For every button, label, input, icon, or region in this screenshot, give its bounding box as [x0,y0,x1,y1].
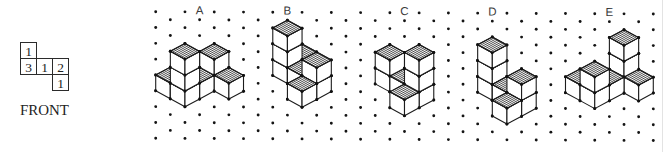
vertex-dot [491,67,494,70]
grid-dot [579,131,582,134]
cube-structure [564,28,655,111]
vertex-dot [593,75,596,78]
grid-dot [447,43,450,46]
grid-dot [549,52,552,55]
vertex-dot [198,82,201,85]
grid-dot [564,107,567,110]
grid-dot [154,10,157,13]
grid-dot [198,129,201,132]
grid-dot [359,138,362,141]
grid-dot [374,98,377,101]
vertex-dot [608,83,611,86]
grid-dot [579,52,582,55]
grid-dot [447,75,450,78]
vertex-dot [169,81,172,84]
grid-dot [418,11,421,14]
grid-dot [535,59,538,62]
cell-height-value: 1 [41,60,48,75]
grid-dot [432,35,435,38]
vertex-dot [330,58,333,61]
grid-dot [286,129,289,132]
grid-dot [301,122,304,125]
grid-dot [505,138,508,141]
grid-dot [184,10,187,13]
vertex-dot [432,83,435,86]
grid-dot [418,122,421,125]
grid-dot [345,98,348,101]
vertex-dot [535,75,538,78]
vertex-dot [418,106,421,109]
grid-dot [315,114,318,117]
vertex-dot [520,99,523,102]
vertex-dot [227,98,230,101]
grid-dot [549,131,552,134]
grid-dot [520,36,523,39]
vertex-dot [608,36,611,39]
grid-dot [315,35,318,38]
grid-dot [301,11,304,14]
vertex-dot [301,106,304,109]
vertex-dot [608,52,611,55]
vertex-dot [242,90,245,93]
vertex-dot [301,27,304,30]
front-caption: FRONT [20,101,69,118]
grid-dot [359,106,362,109]
grid-dot [462,114,465,117]
vertex-dot [403,51,406,54]
grid-dot [374,130,377,133]
vertex-dot [491,115,494,118]
grid-dot [242,137,245,140]
grid-dot [462,130,465,133]
grid-dot [242,121,245,124]
grid-dot [623,12,626,15]
grid-dot [330,138,333,141]
grid-dot [345,82,348,85]
grid-dot [608,115,611,118]
grid-dot [535,139,538,142]
grid-dot [491,130,494,133]
grid-dot [374,19,377,22]
vertex-dot [637,84,640,87]
grid-dot [271,122,274,125]
vertex-dot [315,50,318,53]
grid-dot [432,114,435,117]
vertex-dot [505,107,508,110]
grid-dot [330,27,333,30]
grid-dot [403,130,406,133]
grid-dot [593,12,596,15]
vertex-dot [403,67,406,70]
option-label: C [400,5,408,17]
option-d: D [476,5,538,125]
vertex-dot [564,91,567,94]
vertex-dot [213,90,216,93]
grid-dot [652,123,655,126]
grid-dot [549,115,552,118]
vertex-dot [198,97,201,100]
vertex-dot [183,42,186,45]
grid-dot [593,123,596,126]
option-label: B [284,5,292,17]
vertex-dot [579,67,582,70]
grid-dot [623,107,626,110]
grid-dot [359,74,362,77]
vertex-dot [520,67,523,70]
vertex-dot [227,82,230,85]
vertex-dot [505,75,508,78]
cell-height-value: 3 [25,60,32,75]
grid-dot [447,91,450,94]
grid-dot [447,59,450,62]
grid-dot [462,51,465,54]
grid-dot [564,28,567,31]
grid-dot [257,82,260,85]
vertex-dot [301,42,304,45]
grid-dot [432,19,435,22]
grid-dot [374,35,377,38]
grid-dot [608,20,611,23]
grid-dot [330,106,333,109]
grid-dot [315,19,318,22]
vertex-dot [608,68,611,71]
grid-dot [549,99,552,102]
grid-dot [535,28,538,31]
vertex-dot [169,66,172,69]
grid-dot [242,26,245,29]
